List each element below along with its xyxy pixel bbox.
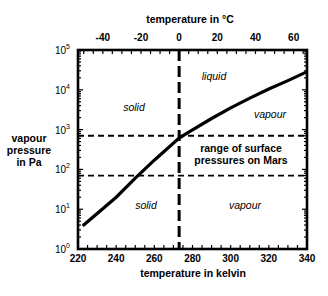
- y-tick-label-exponent: 3: [66, 123, 70, 130]
- y-axis-tick-labels: 100101102103104105: [55, 43, 70, 255]
- mars-range-label-line-1: range of surface: [200, 142, 282, 154]
- region-label-solid-lower: solid: [135, 199, 158, 211]
- y-axis-title-line-2: pressure: [7, 144, 52, 156]
- mars-range-label-line-2: pressures on Mars: [194, 154, 288, 166]
- y-tick-label-exponent: 4: [66, 83, 70, 90]
- x-tick-label: 300: [222, 253, 239, 264]
- top-axis-tick-labels: -40-200204060: [96, 32, 300, 43]
- y-axis-title-line-3: in Pa: [16, 156, 41, 168]
- x-tick-label: 240: [108, 253, 125, 264]
- x-tick-label: 260: [146, 253, 163, 264]
- top-axis-title: temperature in °C: [146, 13, 234, 25]
- y-axis-title: vapour pressure in Pa: [7, 132, 52, 168]
- top-tick-label: 40: [250, 32, 262, 43]
- region-label-vapour-lower: vapour: [229, 199, 262, 211]
- x-axis-title: temperature in kelvin: [140, 267, 246, 279]
- region-label-vapour-upper: vapour: [254, 108, 287, 120]
- top-tick-label: -40: [96, 32, 111, 43]
- top-tick-label: 20: [212, 32, 224, 43]
- top-tick-label: -20: [134, 32, 149, 43]
- x-axis-tick-labels: 220240260280300320340: [70, 253, 316, 264]
- y-tick-label: 10: [55, 164, 67, 175]
- y-tick-label-exponent: 1: [66, 202, 70, 209]
- y-tick-label: 10: [55, 125, 67, 136]
- y-tick-label: 10: [55, 45, 67, 56]
- y-tick-label: 10: [55, 204, 67, 215]
- y-tick-label: 10: [55, 85, 67, 96]
- x-tick-label: 220: [70, 253, 87, 264]
- vapour-pressure-chart: temperature in °C -40-200204060 22024026…: [0, 0, 328, 296]
- x-tick-label: 280: [184, 253, 201, 264]
- x-tick-label: 340: [299, 253, 316, 264]
- x-tick-label: 320: [260, 253, 277, 264]
- region-label-liquid: liquid: [202, 70, 228, 82]
- y-tick-label-exponent: 5: [66, 43, 70, 50]
- region-label-solid-upper: solid: [123, 101, 146, 113]
- top-tick-label: 0: [176, 32, 182, 43]
- y-tick-label-exponent: 0: [66, 242, 70, 249]
- top-tick-label: 60: [288, 32, 300, 43]
- y-tick-label: 10: [55, 244, 67, 255]
- y-axis-title-line-1: vapour: [11, 132, 46, 144]
- y-tick-label-exponent: 2: [66, 162, 70, 169]
